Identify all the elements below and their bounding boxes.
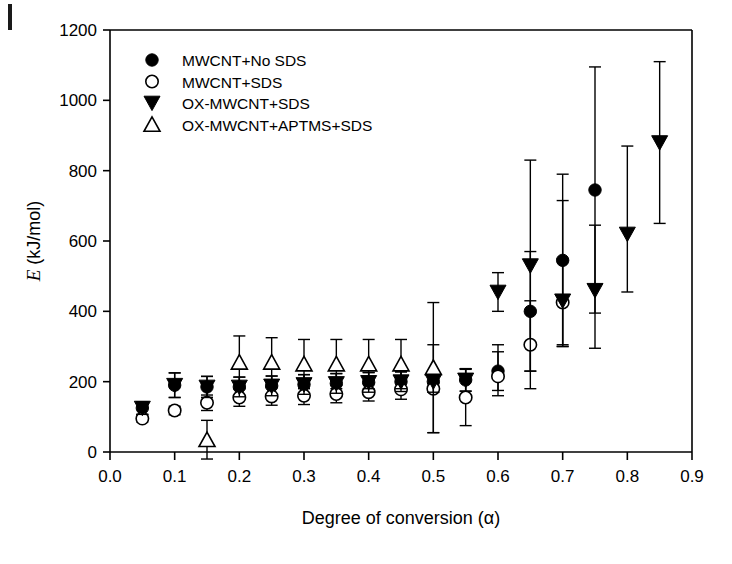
- y-axis-tick-label: 400: [69, 302, 97, 321]
- legend-item: MWCNT+SDS: [146, 74, 283, 91]
- data-point-marker: [490, 285, 506, 299]
- legend-item: OX-MWCNT+SDS: [144, 95, 310, 112]
- data-point-marker: [264, 355, 280, 369]
- legend-marker-icon: [146, 75, 158, 87]
- legend-label: MWCNT+No SDS: [182, 52, 306, 69]
- y-axis-tick-label: 0: [88, 443, 97, 462]
- page-edge-artifact: [8, 4, 12, 30]
- figure-container: 0200400600800100012000.00.10.20.30.40.50…: [0, 0, 732, 564]
- data-point-marker: [328, 356, 344, 370]
- data-point-marker: [168, 404, 180, 416]
- y-axis-title-text: E (kJ/mol): [23, 201, 44, 283]
- legend-marker-icon: [146, 54, 158, 66]
- data-point-marker: [522, 259, 538, 273]
- x-axis-tick-label: 0.0: [98, 467, 122, 486]
- data-point-marker: [199, 432, 215, 446]
- data-point-marker: [492, 370, 504, 382]
- x-axis-tick-label: 0.6: [486, 467, 510, 486]
- data-point-marker: [296, 356, 312, 370]
- chart-legend: MWCNT+No SDSMWCNT+SDSOX-MWCNT+SDSOX-MWCN…: [144, 52, 372, 134]
- y-axis-title: E (kJ/mol): [23, 201, 44, 283]
- y-axis-tick-label: 1200: [59, 21, 97, 40]
- data-point-marker: [459, 391, 471, 403]
- x-axis-tick-label: 0.1: [163, 467, 187, 486]
- x-axis-tick-label: 0.9: [680, 467, 704, 486]
- data-point-marker: [619, 227, 635, 241]
- axes-group: 0200400600800100012000.00.10.20.30.40.50…: [59, 21, 704, 486]
- x-axis-tick-label: 0.4: [357, 467, 381, 486]
- data-point-marker: [361, 356, 377, 370]
- x-axis-title: Degree of conversion (α): [302, 508, 501, 528]
- data-point-marker: [652, 136, 668, 150]
- data-point-marker: [201, 397, 213, 409]
- legend-marker-icon: [144, 96, 160, 110]
- y-axis-tick-label: 200: [69, 373, 97, 392]
- activation-energy-scatter-chart: 0200400600800100012000.00.10.20.30.40.50…: [0, 0, 732, 564]
- legend-label: OX-MWCNT+SDS: [182, 95, 310, 112]
- legend-item: OX-MWCNT+APTMS+SDS: [144, 117, 372, 134]
- legend-item: MWCNT+No SDS: [146, 52, 307, 69]
- data-point-marker: [231, 355, 247, 369]
- x-axis-tick-label: 0.8: [616, 467, 640, 486]
- data-point-marker: [425, 360, 441, 374]
- legend-label: OX-MWCNT+APTMS+SDS: [182, 117, 372, 134]
- data-point-marker: [589, 184, 601, 196]
- y-axis-tick-label: 1000: [59, 91, 97, 110]
- data-point-marker: [393, 356, 409, 370]
- data-point-marker: [587, 283, 603, 297]
- y-axis-tick-label: 600: [69, 232, 97, 251]
- legend-marker-icon: [144, 117, 160, 131]
- y-axis-tick-label: 800: [69, 162, 97, 181]
- legend-label: MWCNT+SDS: [182, 74, 282, 91]
- x-axis-tick-label: 0.7: [551, 467, 575, 486]
- x-axis-tick-label: 0.5: [422, 467, 446, 486]
- x-axis-tick-label: 0.3: [292, 467, 316, 486]
- x-axis-tick-label: 0.2: [228, 467, 252, 486]
